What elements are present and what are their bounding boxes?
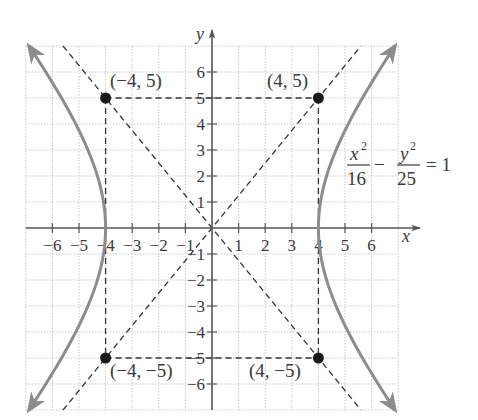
point-label-4-5: (4, 5) <box>267 70 308 92</box>
x-tick-label: 1 <box>234 236 243 255</box>
y-tick-label: 3 <box>197 141 206 160</box>
eq-y-denominator: 25 <box>397 168 416 189</box>
x-tick-label: 2 <box>261 236 270 255</box>
y-tick-label: −4 <box>187 323 206 342</box>
y-tick-label: 6 <box>197 63 206 82</box>
y-tick-label: −3 <box>187 297 205 316</box>
x-tick-label: 3 <box>288 236 297 255</box>
eq-x-exponent: 2 <box>361 139 367 153</box>
x-tick-label: −3 <box>123 236 141 255</box>
x-tick-label: 6 <box>367 236 376 255</box>
eq-y-numerator: y <box>398 143 409 164</box>
y-tick-label: 1 <box>197 193 206 212</box>
x-tick-label: 5 <box>341 236 350 255</box>
point-label-neg4-neg5: (−4, −5) <box>110 360 173 382</box>
y-tick-label: 2 <box>197 167 206 186</box>
point-label-4-neg5: (4, −5) <box>249 360 301 382</box>
corner-point <box>313 353 324 364</box>
y-tick-label: −1 <box>187 245 205 264</box>
y-tick-label: −2 <box>187 271 205 290</box>
y-tick-label: 5 <box>197 89 206 108</box>
y-tick-label: −5 <box>187 349 205 368</box>
x-axis-label: x <box>401 226 410 246</box>
hyperbola-plot: −6−5−4−3−2−1123456654321−1−2−3−4−5−6 x y… <box>0 0 478 420</box>
corner-point <box>313 93 324 104</box>
eq-rhs: = 1 <box>426 154 451 175</box>
x-tick-label: −2 <box>150 236 168 255</box>
equation-label: x 2 16 − y 2 25 = 1 <box>347 139 451 189</box>
eq-x-denominator: 16 <box>347 168 366 189</box>
x-tick-label: −6 <box>43 236 61 255</box>
eq-y-exponent: 2 <box>410 139 416 153</box>
eq-x-numerator: x <box>349 143 359 164</box>
x-tick-label: −5 <box>70 236 88 255</box>
y-axis-label: y <box>194 24 204 44</box>
point-label-neg4-5: (−4, 5) <box>110 70 162 92</box>
y-tick-label: −6 <box>187 375 205 394</box>
eq-minus: − <box>374 154 385 175</box>
corner-point <box>100 93 111 104</box>
y-tick-label: 4 <box>197 115 206 134</box>
